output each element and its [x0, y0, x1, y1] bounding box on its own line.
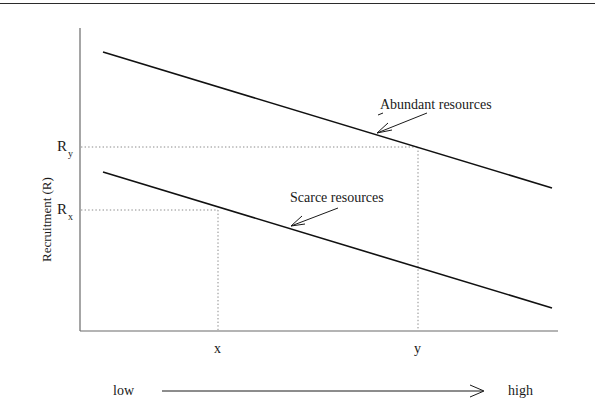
- annotation-arrow-abundant: [377, 113, 427, 133]
- annotation-arrow-abundant-shaft: [378, 113, 383, 115]
- y-tick-ry-base: R: [57, 138, 67, 154]
- scale-bar-low-label: low: [113, 384, 134, 398]
- x-tick-label-y: y: [414, 342, 421, 356]
- figure-container: Recruitment (R) Ry Rx x y Abundant resou…: [0, 0, 595, 414]
- series-annotation-abundant: Abundant resources: [380, 98, 492, 112]
- y-axis-title: Recruitment (R): [40, 177, 53, 262]
- annotation-arrow-scarce: [291, 208, 338, 226]
- y-tick-rx-subscript: x: [68, 211, 73, 222]
- scale-bar-high-label: high: [508, 384, 533, 398]
- chart-canvas: [0, 0, 595, 414]
- y-tick-label-rx: Rx: [57, 202, 72, 220]
- y-tick-rx-base: R: [57, 201, 67, 217]
- y-tick-label-ry: Ry: [57, 139, 72, 157]
- y-tick-ry-subscript: y: [68, 148, 73, 159]
- series-line-abundant: [103, 52, 552, 188]
- x-tick-label-x: x: [214, 342, 221, 356]
- series-annotation-scarce: Scarce resources: [290, 191, 384, 205]
